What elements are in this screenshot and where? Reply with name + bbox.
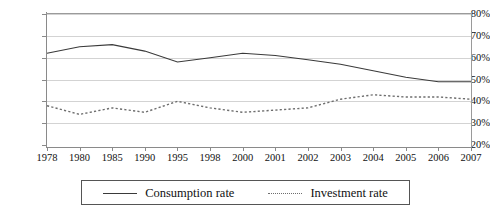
legend-solid-line-icon [103,189,137,197]
series-line-consumption-rate [47,45,471,82]
legend-item-investment-rate: Investment rate [268,186,387,200]
legend-label-consumption-rate: Consumption rate [145,186,234,200]
legend-dotted-line-icon [268,189,302,197]
chart-figure: 80%70%60%50%40%30%20% 197819801985199019… [0,0,490,218]
legend-item-consumption-rate: Consumption rate [103,186,234,200]
chart-legend: Consumption rate Investment rate [81,180,410,205]
legend-label-investment-rate: Investment rate [310,186,387,200]
series-line-investment-rate [47,95,471,115]
series-plot-area [0,0,490,165]
